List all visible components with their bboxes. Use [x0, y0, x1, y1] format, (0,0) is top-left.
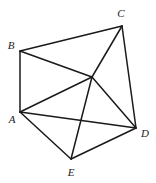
vertex-label-D: D	[141, 128, 149, 139]
geometry-figure: ABCDE	[0, 0, 156, 183]
segment-EF	[71, 77, 92, 159]
edges-group	[20, 26, 136, 159]
vertex-label-C: C	[117, 8, 124, 19]
geometry-canvas	[0, 0, 156, 183]
segment-DE	[71, 128, 136, 159]
segment-CF	[92, 26, 122, 77]
vertex-label-B: B	[8, 40, 15, 51]
segment-AF	[20, 77, 92, 112]
vertex-label-E: E	[68, 167, 75, 178]
segment-BC	[20, 26, 122, 51]
vertex-label-A: A	[9, 114, 16, 125]
segment-EA	[20, 112, 71, 159]
segment-CD	[122, 26, 136, 128]
segment-BF	[20, 51, 92, 77]
segment-AD	[20, 112, 136, 128]
